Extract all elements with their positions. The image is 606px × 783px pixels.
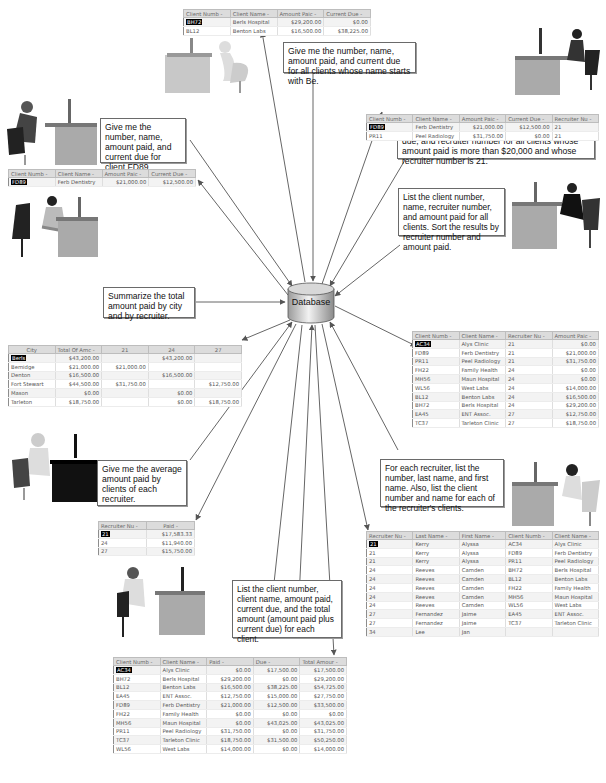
table-cell[interactable]: $16,500.00	[552, 392, 599, 401]
table-cell[interactable]: Alys Clinic	[459, 340, 506, 349]
table-cell[interactable]: $14,000.00	[552, 383, 599, 392]
table-cell[interactable]: TC37	[506, 619, 552, 628]
table-cell[interactable]: 27	[367, 610, 413, 619]
column-header[interactable]: 24	[148, 346, 195, 354]
column-header[interactable]: Client Name -	[230, 10, 277, 18]
table-cell[interactable]: $15,000.00	[253, 692, 300, 701]
column-header[interactable]: Recruiter Nu -	[99, 522, 147, 530]
table-row[interactable]: BH72Berls Hospital24$29,200.00	[413, 401, 599, 410]
column-header[interactable]: Recruiter Nu -	[552, 115, 598, 123]
table-cell[interactable]: $27,750.00	[300, 692, 347, 701]
table-row[interactable]: 27FernandezJaimeEA45ENT Assoc.	[367, 610, 599, 619]
column-header[interactable]: Current Due -	[324, 10, 371, 18]
column-header[interactable]: Client Name -	[55, 170, 102, 178]
table-cell[interactable]: $38,225.00	[253, 683, 300, 692]
table-cell[interactable]: $0.00	[253, 727, 300, 736]
table-cell[interactable]: $31,750.00	[300, 727, 347, 736]
table-cell[interactable]: $31,750.00	[102, 380, 149, 389]
table-row[interactable]: BH72Berls Hospital$29,200.00$0.00$29,200…	[114, 674, 347, 683]
table-cell[interactable]: Alyssa	[459, 540, 505, 549]
table-cell[interactable]: $17,583.33	[147, 530, 195, 539]
table-cell[interactable]: Maun Hospital	[160, 718, 207, 727]
column-header[interactable]: Client Numb -	[413, 332, 460, 340]
table-row[interactable]: 21KerryAlyssaAC34Alys Clinic	[367, 540, 599, 549]
column-header[interactable]: Recruiter Nu -	[506, 332, 553, 340]
table-cell[interactable]: $0.00	[55, 389, 102, 398]
table-row[interactable]: MH56Maun Hospital$0.00$43,025.00$43,025.…	[114, 718, 347, 727]
table-row[interactable]: PR11Peel Radiology21$31,750.00	[413, 357, 599, 366]
table-cell[interactable]: Tarleton	[9, 397, 56, 406]
table-cell[interactable]: MH56	[413, 375, 460, 384]
column-header[interactable]: Current Due -	[506, 115, 552, 123]
table-cell[interactable]: $0.00	[300, 709, 347, 718]
table-cell[interactable]: Camden	[459, 601, 505, 610]
table-cell[interactable]: Jaime	[459, 610, 505, 619]
table-cell[interactable]: 27	[506, 419, 553, 428]
table-cell[interactable]: $11,940.00	[147, 538, 195, 547]
table-cell[interactable]: Alys Clinic	[160, 666, 207, 675]
table-cell[interactable]: EA45	[413, 410, 460, 419]
column-header[interactable]: Amount Paic -	[277, 10, 324, 18]
table-cell[interactable]	[102, 397, 149, 406]
table-cell[interactable]: $29,200.00	[207, 674, 254, 683]
table-cell[interactable]: Jan	[459, 627, 505, 636]
table-cell[interactable]: $0.00	[253, 709, 300, 718]
table-cell[interactable]: $33,500.00	[300, 701, 347, 710]
table-row[interactable]: 21KerryAlyssaFD89Ferb Dentistry	[367, 548, 599, 557]
table-cell[interactable]: Benton Labs	[459, 392, 506, 401]
table-cell[interactable]: BH72	[506, 566, 552, 575]
table-cell[interactable]	[148, 380, 195, 389]
table-row[interactable]: AC34Alys Clinic21$0.00	[413, 340, 599, 349]
table-cell[interactable]: Berls Hospital	[230, 18, 277, 27]
column-header[interactable]: Current Due -	[149, 170, 196, 178]
table-cell[interactable]: $31,750.00	[552, 357, 599, 366]
table-row[interactable]: FD89Ferb Dentistry$21,000.00$12,500.00	[9, 178, 196, 187]
table-cell[interactable]: $43,025.00	[300, 718, 347, 727]
table-cell[interactable]: Benton Labs	[160, 683, 207, 692]
table-cell[interactable]: Bemidge	[9, 362, 56, 371]
table-cell[interactable]: $0.00	[324, 18, 371, 27]
table-row[interactable]: 24ReevesCamdenBH72Berls Hospital	[367, 566, 599, 575]
column-header[interactable]: Total Amour -	[300, 658, 347, 666]
table-cell[interactable]: West Labs	[552, 601, 598, 610]
table-cell[interactable]: 21	[506, 357, 553, 366]
table-cell[interactable]: 24	[367, 583, 413, 592]
table-cell[interactable]: Fernandez	[413, 619, 459, 628]
table-cell[interactable]: BH72	[413, 401, 460, 410]
table-cell[interactable]: $0.00	[148, 389, 195, 398]
column-header[interactable]: Client Name -	[160, 658, 207, 666]
table-row[interactable]: Tarleton$18,750.00$0.00$18,750.00	[9, 397, 242, 406]
column-header[interactable]: Due -	[253, 658, 300, 666]
table-cell[interactable]: FD89	[367, 123, 413, 132]
table-cell[interactable]: Benton Labs	[552, 575, 598, 584]
column-header[interactable]: Client Name -	[413, 115, 459, 123]
table-row[interactable]: FH22Family Health24$0.00	[413, 366, 599, 375]
table-cell[interactable]: AC34	[413, 340, 460, 349]
table-cell[interactable]: $0.00	[552, 340, 599, 349]
table-cell[interactable]	[506, 627, 552, 636]
table-row[interactable]: 24ReevesCamdenWL56West Labs	[367, 601, 599, 610]
table-cell[interactable]: $21,000.00	[102, 178, 149, 187]
table-cell[interactable]: Camden	[459, 592, 505, 601]
table-row[interactable]: TC37Tarleton Clinic27$18,750.00	[413, 419, 599, 428]
table-cell[interactable]	[102, 371, 149, 380]
table-row[interactable]: 24$11,940.00	[99, 538, 195, 547]
table-cell[interactable]: $31,750.00	[207, 727, 254, 736]
table-row[interactable]: 24ReevesCamdenBL12Benton Labs	[367, 575, 599, 584]
table-cell[interactable]: 21	[367, 548, 413, 557]
column-header[interactable]: Client Numb -	[184, 10, 231, 18]
table-cell[interactable]: $21,000.00	[207, 701, 254, 710]
table-cell[interactable]: 24	[367, 601, 413, 610]
table-row[interactable]: PR11Peel Radiology$31,750.00$0.0021	[367, 131, 599, 140]
table-cell[interactable]: Reeves	[413, 601, 459, 610]
column-header[interactable]: Paid -	[147, 522, 195, 530]
table-cell[interactable]: 27	[506, 410, 553, 419]
table-cell[interactable]: Fort Stewart	[9, 380, 56, 389]
table-cell[interactable]: $17,500.00	[253, 666, 300, 675]
column-header[interactable]: Client Name -	[459, 332, 506, 340]
column-header[interactable]: Last Name -	[413, 532, 459, 540]
table-cell[interactable]: BL12	[114, 683, 161, 692]
table-row[interactable]: AC34Alys Clinic$0.00$17,500.00$17,500.00	[114, 666, 347, 675]
table-cell[interactable]: 21	[506, 348, 553, 357]
table-cell[interactable]: $21,000.00	[55, 362, 102, 371]
